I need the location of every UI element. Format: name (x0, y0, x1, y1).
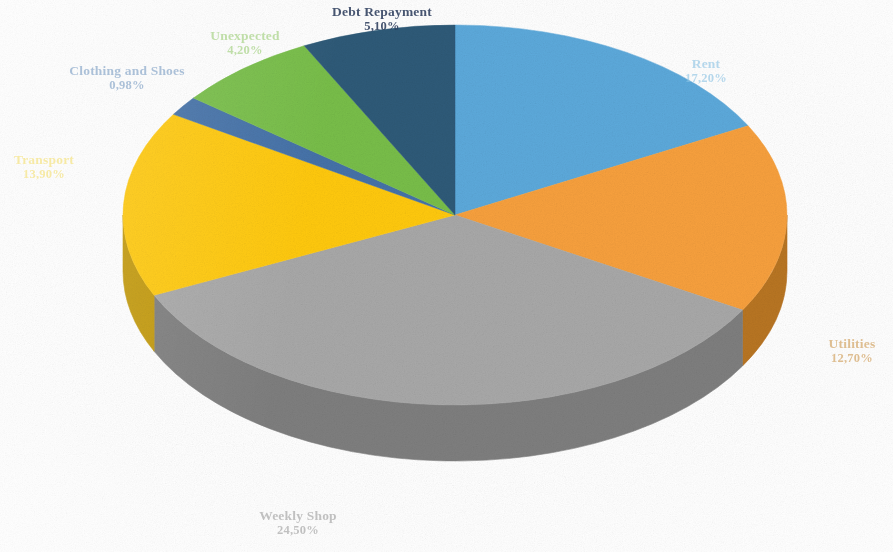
slice-label-debt-repayment-value: 5,10% (302, 19, 462, 33)
slice-label-transport: Transport 13,90% (0, 152, 92, 181)
slice-label-utilities-name: Utilities (806, 336, 893, 351)
slice-label-clothing-and-shoes: Clothing and Shoes 0,98% (38, 63, 216, 92)
slice-label-utilities-value: 12,70% (806, 351, 893, 365)
slice-label-rent: Rent 17,20% (648, 56, 764, 85)
slice-label-debt-repayment-name: Debt Repayment (302, 4, 462, 19)
slice-label-weekly-shop-value: 24,50% (228, 523, 368, 537)
pie-chart: Debt Repayment 5,10% Unexpected 4,20% Cl… (0, 0, 893, 552)
slice-label-weekly-shop-name: Weekly Shop (228, 508, 368, 523)
slice-label-transport-value: 13,90% (0, 167, 92, 181)
slice-label-unexpected: Unexpected 4,20% (178, 28, 312, 57)
slice-label-weekly-shop: Weekly Shop 24,50% (228, 508, 368, 537)
slice-label-utilities: Utilities 12,70% (806, 336, 893, 365)
slice-label-rent-name: Rent (648, 56, 764, 71)
slice-label-debt-repayment: Debt Repayment 5,10% (302, 4, 462, 33)
slice-label-unexpected-value: 4,20% (178, 43, 312, 57)
slice-label-clothing-and-shoes-name: Clothing and Shoes (38, 63, 216, 78)
slice-label-unexpected-name: Unexpected (178, 28, 312, 43)
slice-label-clothing-and-shoes-value: 0,98% (38, 78, 216, 92)
slice-label-rent-value: 17,20% (648, 71, 764, 85)
slice-label-transport-name: Transport (0, 152, 92, 167)
